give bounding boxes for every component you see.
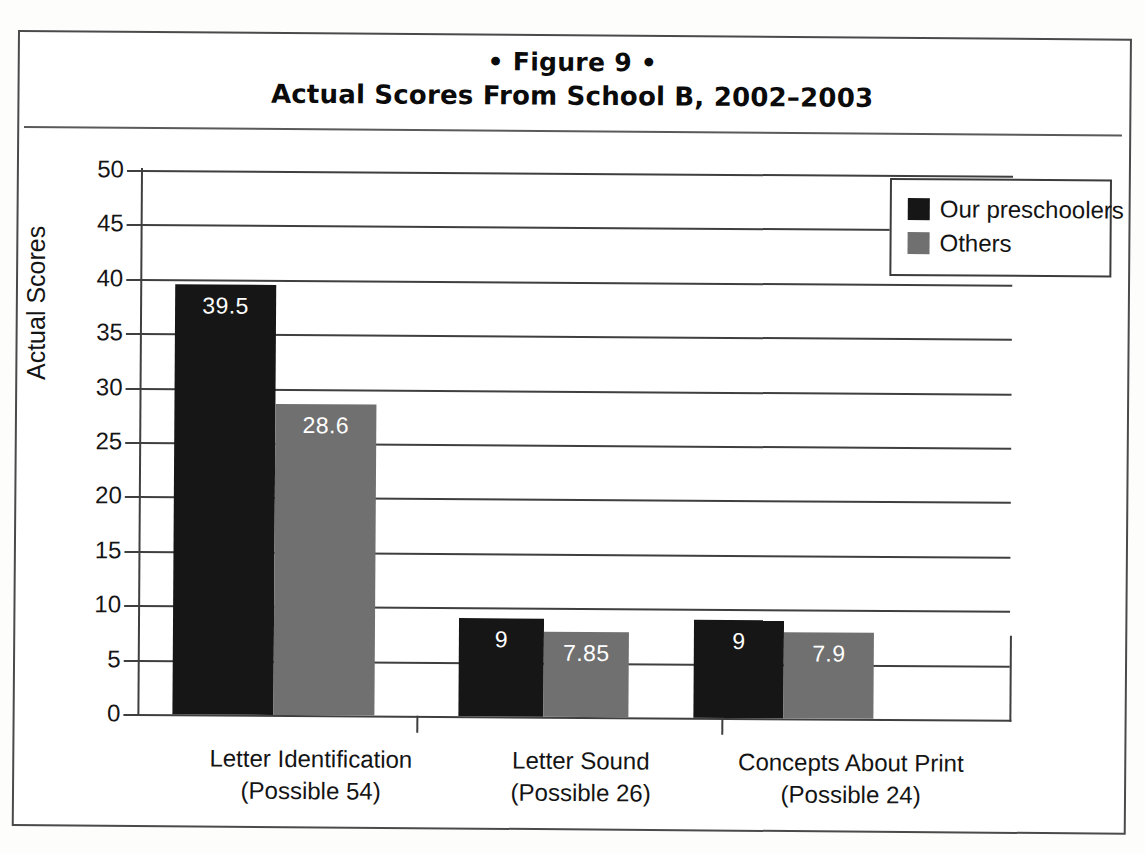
x-axis-category-label: Concepts About Print(Possible 24): [701, 746, 1001, 811]
bar: 39.5: [172, 284, 276, 714]
bar: 7.85: [543, 631, 629, 717]
y-axis-tick: [124, 605, 139, 607]
bar: 9: [458, 618, 544, 716]
legend-item: Our preschoolers: [908, 192, 1110, 227]
x-axis-category-label: Letter Identification(Possible 54): [161, 742, 461, 807]
x-axis-category-separator: [416, 716, 418, 733]
category-name: Letter Identification: [161, 742, 461, 776]
plot-area: 39.528.697.8597.9: [137, 170, 1013, 720]
legend-item: Others: [907, 226, 1109, 261]
y-axis-tick: [125, 496, 140, 498]
chart-legend: Our preschoolersOthers: [889, 178, 1112, 277]
y-axis-tick-label: 20: [95, 482, 122, 510]
y-axis-tick-label: 35: [96, 318, 123, 346]
y-axis-tick-label: 5: [107, 645, 121, 673]
bar-value-label: 39.5: [175, 292, 276, 320]
legend-label: Others: [939, 229, 1011, 257]
y-axis-tick: [124, 551, 139, 553]
y-axis-tick: [127, 224, 142, 226]
y-axis-tick: [125, 442, 140, 444]
y-axis-tick-label: 30: [96, 373, 123, 401]
x-axis-category-separator: [721, 718, 723, 735]
bar-value-label: 9: [694, 628, 784, 656]
x-axis-category-label: Letter Sound(Possible 26): [461, 744, 701, 809]
y-axis-tick-label: 10: [94, 590, 121, 618]
bar-value-label: 7.9: [784, 640, 874, 668]
legend-label: Our preschoolers: [940, 195, 1124, 224]
x-axis-category-labels: Letter Identification(Possible 54)Letter…: [140, 742, 1031, 828]
y-axis-tick-labels: 50454035302520151050: [54, 170, 124, 714]
y-axis-tick-label: 0: [107, 699, 121, 727]
y-axis-tick-label: 15: [95, 536, 122, 564]
bar-value-label: 28.6: [275, 412, 376, 440]
legend-swatch: [907, 232, 929, 254]
figure-number: • Figure 9 •: [30, 44, 1115, 81]
bar: 9: [693, 620, 784, 719]
bar: 7.9: [783, 632, 874, 719]
y-axis-tick-label: 45: [97, 210, 124, 238]
category-name: Letter Sound: [461, 744, 701, 777]
y-axis-tick-label: 50: [97, 155, 124, 183]
category-possible-total: (Possible 24): [701, 778, 1001, 812]
y-axis-tick: [126, 387, 141, 389]
category-name: Concepts About Print: [701, 746, 1001, 780]
figure-root: • Figure 9 • Actual Scores From School B…: [0, 0, 1145, 854]
figure-title-block: • Figure 9 • Actual Scores From School B…: [30, 44, 1115, 115]
legend-swatch: [908, 198, 930, 220]
y-axis-tick: [126, 333, 141, 335]
y-axis-tick-label: 25: [95, 427, 122, 455]
y-axis-tick-label: 40: [96, 264, 123, 292]
y-axis-tick: [124, 659, 139, 661]
bar-value-label: 7.85: [544, 639, 629, 667]
y-axis-tick: [127, 170, 142, 172]
y-axis-tick: [123, 714, 138, 716]
bar: 28.6: [273, 404, 376, 716]
category-possible-total: (Possible 54): [161, 774, 461, 808]
y-axis-title: Actual Scores: [22, 226, 51, 380]
gridline: [141, 224, 1013, 232]
bar-value-label: 9: [459, 626, 544, 654]
y-axis-tick: [126, 279, 141, 281]
category-possible-total: (Possible 26): [461, 776, 701, 809]
